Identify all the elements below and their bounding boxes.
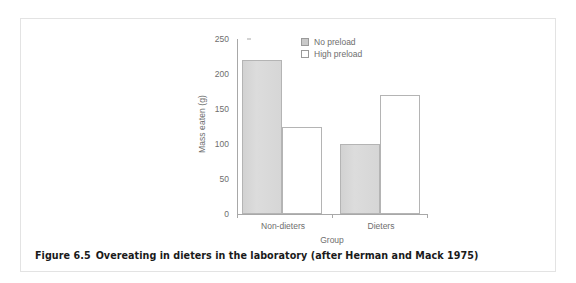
chart-legend: No preload High preload <box>301 37 362 59</box>
figure-frame: Mass eaten (g) 250 200 150 100 50 0 <box>20 18 556 272</box>
legend-swatch-empty-icon <box>301 50 309 58</box>
figure-caption-number: Figure 6.5 <box>35 250 91 261</box>
y-tick-label: 200 <box>215 69 229 79</box>
figure-caption: Figure 6.5Overeating in dieters in the l… <box>35 250 478 261</box>
y-tick-label: 150 <box>215 104 229 114</box>
legend-item-high-preload: High preload <box>301 49 362 59</box>
x-tick-mark <box>332 214 333 218</box>
legend-item-no-preload: No preload <box>301 37 362 47</box>
bar-dieters-high-preload <box>380 95 420 214</box>
figure-caption-text: Overeating in dieters in the laboratory … <box>96 250 479 261</box>
bar-non-dieters-high-preload <box>282 127 322 215</box>
legend-label: High preload <box>314 49 362 59</box>
plot-area <box>238 39 427 214</box>
y-tick-label: 250 <box>215 34 229 44</box>
x-category-label-non-dieters: Non-dieters <box>261 221 305 231</box>
y-tick-label: 0 <box>224 209 229 219</box>
bar-dieters-no-preload <box>340 144 380 214</box>
x-category-label-dieters: Dieters <box>368 221 395 231</box>
y-axis-ticks: 250 200 150 100 50 0 <box>207 33 233 215</box>
bar-non-dieters-no-preload <box>242 60 282 214</box>
x-tick-mark <box>237 214 238 218</box>
legend-label: No preload <box>314 37 356 47</box>
bar-chart: Mass eaten (g) 250 200 150 100 50 0 <box>193 33 443 245</box>
y-tick-label: 50 <box>220 174 229 184</box>
legend-swatch-filled-icon <box>301 38 309 46</box>
y-tick-label: 100 <box>215 139 229 149</box>
x-tick-mark <box>427 214 428 218</box>
x-axis-title: Group <box>237 235 427 245</box>
